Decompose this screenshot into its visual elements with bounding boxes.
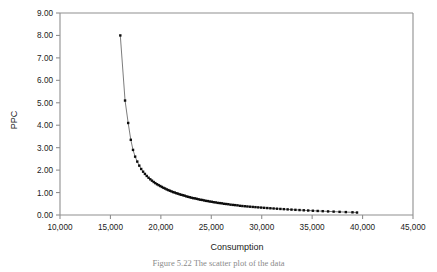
data-point-marker — [132, 149, 134, 151]
data-point-marker — [283, 208, 285, 210]
data-point-marker — [272, 207, 274, 209]
data-point-marker — [138, 164, 140, 166]
data-point-marker — [136, 160, 138, 162]
x-tick-label: 40,000 — [350, 223, 375, 232]
y-tick-label: 8.00 — [37, 31, 53, 40]
data-point-marker — [134, 155, 136, 157]
data-point-marker — [279, 208, 281, 210]
data-point-marker — [217, 202, 219, 204]
x-tick-label: 35,000 — [300, 223, 325, 232]
data-point-marker — [227, 203, 229, 205]
y-tick-label: 1.00 — [37, 189, 53, 198]
y-tick-label: 4.00 — [37, 121, 53, 130]
ppc-consumption-scatter-chart: 0.001.002.003.004.005.006.007.008.009.00… — [0, 0, 437, 272]
data-point-marker — [225, 203, 227, 205]
data-point-marker — [356, 211, 358, 213]
data-point-marker — [266, 207, 268, 209]
data-point-marker — [229, 203, 231, 205]
data-point-marker — [290, 208, 292, 210]
data-point-marker — [327, 210, 329, 212]
data-point-marker — [298, 209, 300, 211]
x-tick-label: 25,000 — [199, 223, 224, 232]
data-point-marker — [140, 168, 142, 170]
data-point-marker — [286, 208, 288, 210]
data-point-marker — [236, 204, 238, 206]
data-point-marker — [252, 206, 254, 208]
data-point-marker — [241, 205, 243, 207]
data-point-marker — [223, 203, 225, 205]
data-point-marker — [294, 209, 296, 211]
y-tick-label: 2.00 — [37, 166, 53, 175]
y-tick-label: 3.00 — [37, 144, 53, 153]
data-point-marker — [322, 210, 324, 212]
data-point-marker — [254, 206, 256, 208]
x-tick-label: 45,000 — [400, 223, 425, 232]
data-point-marker — [221, 202, 223, 204]
y-axis-title: PPC — [9, 110, 19, 129]
data-point-marker — [234, 204, 236, 206]
data-point-marker — [312, 210, 314, 212]
x-tick-label: 15,000 — [98, 223, 123, 232]
data-point-marker — [249, 206, 251, 208]
data-point-marker — [332, 210, 334, 212]
x-tick-label: 20,000 — [148, 223, 173, 232]
data-point-marker — [260, 206, 262, 208]
data-point-marker — [303, 209, 305, 211]
x-axis-title: Consumption — [210, 242, 263, 252]
data-point-marker — [130, 139, 132, 141]
data-point-marker — [119, 34, 121, 36]
y-tick-label: 6.00 — [37, 76, 53, 85]
figure-caption: Figure 5.22 The scatter plot of the data — [0, 258, 437, 268]
x-tick-label: 10,000 — [47, 223, 72, 232]
data-point-marker — [232, 204, 234, 206]
figure-container: 0.001.002.003.004.005.006.007.008.009.00… — [0, 0, 437, 272]
data-point-marker — [276, 208, 278, 210]
data-point-marker — [257, 206, 259, 208]
data-point-marker — [124, 99, 126, 101]
data-point-marker — [351, 211, 353, 213]
data-point-marker — [263, 207, 265, 209]
data-point-marker — [244, 205, 246, 207]
data-point-marker — [269, 207, 271, 209]
y-tick-label: 5.00 — [37, 99, 53, 108]
data-point-marker — [246, 205, 248, 207]
y-tick-label: 0.00 — [37, 211, 53, 220]
y-tick-label: 9.00 — [37, 9, 53, 18]
data-point-marker — [307, 209, 309, 211]
data-point-marker — [142, 170, 144, 172]
x-tick-label: 30,000 — [249, 223, 274, 232]
data-point-marker — [316, 210, 318, 212]
y-tick-label: 7.00 — [37, 54, 53, 63]
data-point-marker — [345, 211, 347, 213]
data-point-marker — [239, 205, 241, 207]
data-point-marker — [127, 122, 129, 124]
data-point-marker — [338, 211, 340, 213]
